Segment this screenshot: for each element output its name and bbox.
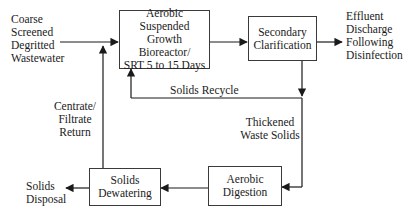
thickened-line-2: Waste Solids: [240, 129, 300, 142]
disposal-line-1: Solids: [26, 180, 66, 193]
influent-line-2: Screened: [11, 26, 64, 39]
centrate-label: Centrate/ Filtrate Return: [52, 100, 98, 139]
thickened-solids-label: Thickened Waste Solids: [240, 116, 300, 142]
effluent-line-2: Discharge: [346, 23, 403, 36]
digestion-box: Aerobic Digestion: [208, 166, 282, 206]
centrate-line-3: Return: [52, 126, 98, 139]
effluent-line-1: Effluent: [346, 10, 403, 23]
dewatering-box: Solids Dewatering: [89, 168, 161, 206]
dewatering-line-2: Dewatering: [98, 187, 152, 200]
bioreactor-line-3: SRT 5 to 15 Days: [124, 59, 206, 72]
digestion-line-2: Digestion: [223, 186, 268, 199]
effluent-line-4: Disinfection: [346, 49, 403, 62]
solids-recycle-label: Solids Recycle: [170, 84, 239, 97]
thickened-line-1: Thickened: [240, 116, 300, 129]
influent-line-3: Degritted: [11, 39, 64, 52]
digestion-line-1: Aerobic: [226, 173, 263, 186]
disposal-label: Solids Disposal: [26, 180, 66, 206]
centrate-line-2: Filtrate: [52, 113, 98, 126]
clarifier-line-1: Secondary: [258, 26, 307, 39]
effluent-line-3: Following: [346, 36, 403, 49]
influent-label: Coarse Screened Degritted Wastewater: [11, 13, 64, 65]
centrate-line-1: Centrate/: [52, 100, 98, 113]
influent-line-1: Coarse: [11, 13, 64, 26]
dewatering-line-1: Solids: [111, 174, 140, 187]
disposal-line-2: Disposal: [26, 193, 66, 206]
bioreactor-line-2: Growth Bioreactor/: [120, 33, 209, 59]
effluent-label: Effluent Discharge Following Disinfectio…: [346, 10, 403, 62]
bioreactor-box: Aerobic Suspended Growth Bioreactor/ SRT…: [119, 10, 210, 69]
bioreactor-line-1: Aerobic Suspended: [120, 7, 209, 33]
clarifier-box: Secondary Clarification: [248, 16, 317, 61]
clarifier-line-2: Clarification: [253, 39, 311, 52]
influent-line-4: Wastewater: [11, 52, 64, 65]
